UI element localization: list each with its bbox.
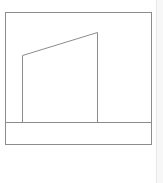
drawing-canvas[interactable]	[0, 0, 156, 183]
diagram-svg	[0, 0, 156, 183]
frame-border	[6, 13, 152, 145]
vertical-scrollbar[interactable]	[156, 0, 163, 183]
diagram-viewport	[0, 0, 163, 183]
trapezoid-shape[interactable]	[23, 33, 98, 123]
